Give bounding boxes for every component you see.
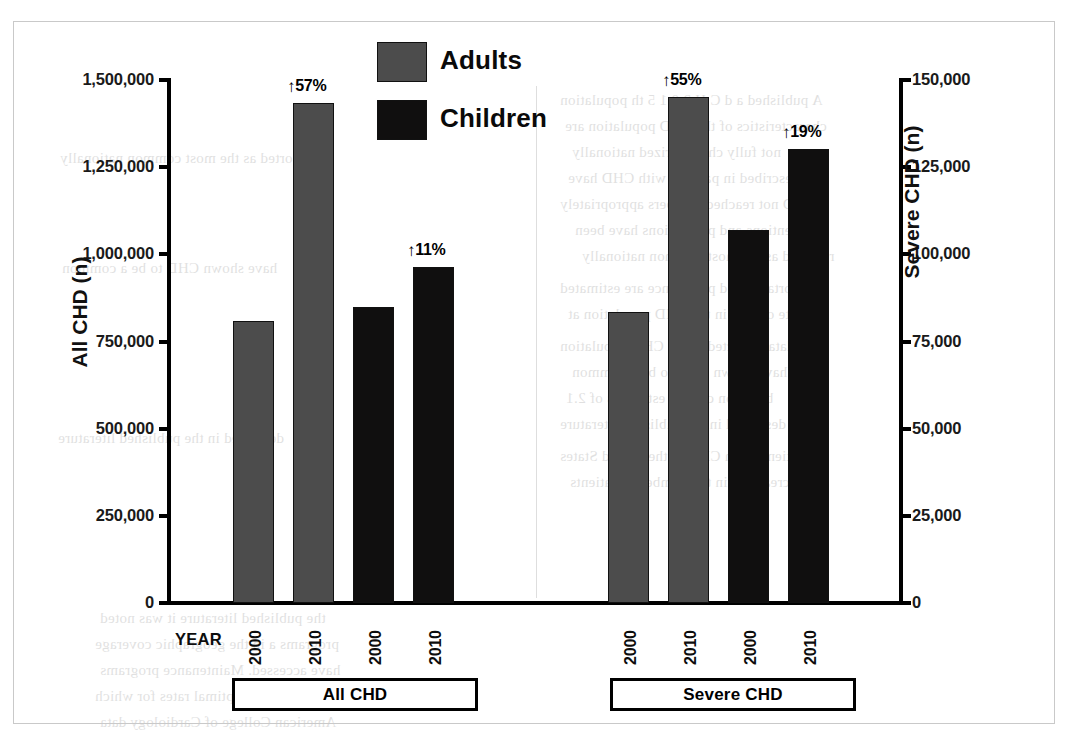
x-tick-label-all-chd-2000-adults: 2000 [247,630,265,665]
y-axis-right-tick [902,340,911,344]
up-arrow-icon: ↑ [662,72,670,89]
bar-annotation-value: 57% [295,77,326,94]
y-axis-right-tick-label: 50,000 [912,419,961,438]
x-tick-label-all-chd-2010-children: 2010 [427,630,445,665]
y-axis-right-tick [902,601,911,605]
x-axis-title: YEAR [175,630,222,649]
x-tick-label-severe-chd-2000-children: 2000 [742,630,760,665]
bar-annotation-value: 11% [415,241,445,258]
up-arrow-icon: ↑ [407,242,415,259]
bar-severe-chd-adults-2010 [668,97,709,603]
bar-all-chd-adults-2010 [293,103,334,603]
y-axis-left-tick-label: 0 [145,593,154,612]
y-axis-left-tick-label: 1,500,000 [82,70,154,89]
group-box-severe-chd: Severe CHD [610,678,856,711]
y-axis-right-tick [902,78,911,82]
bar-severe-chd-children-2010 [788,149,829,603]
bar-severe-chd-children-2000 [728,230,769,603]
bar-annotation-all-chd-children-2010: ↑11% [407,241,445,259]
y-axis-left-tick [159,427,168,431]
legend-swatch-adults [377,42,427,82]
bar-all-chd-adults-2000 [233,321,274,603]
bar-all-chd-children-2000 [353,307,394,603]
up-arrow-icon: ↑ [287,78,295,95]
bar-all-chd-children-2010 [413,267,454,603]
y-axis-left-tick [159,252,168,256]
y-axis-left-tick [159,165,168,169]
y-axis-right-tick [902,427,911,431]
y-axis-right-title: Severe CHD (n) [900,92,924,312]
y-axis-left-tick [159,340,168,344]
legend-swatch-children [377,100,427,140]
chart-plot-area: Adults Children 1,500,000 1,250,000 1,00… [0,0,1070,747]
legend-label-adults: Adults [440,45,522,76]
bar-annotation-severe-chd-adults-2010: ↑55% [662,71,701,89]
x-tick-label-severe-chd-2000-adults: 2000 [622,630,640,665]
y-axis-left-tick-label: 1,250,000 [82,157,154,176]
legend-label-children: Children [440,103,547,134]
y-axis-left-tick [159,78,168,82]
y-axis-left-title: All CHD (n) [68,212,92,412]
group-box-all-chd: All CHD [232,678,478,711]
bar-annotation-value: 19% [790,123,821,140]
y-axis-left-tick-label: 750,000 [96,332,154,351]
y-axis-right-tick-label: 0 [912,593,921,612]
y-axis-right-tick-label: 150,000 [912,70,970,89]
y-axis-left-tick [159,514,168,518]
bar-annotation-all-chd-adults-2010: ↑57% [287,77,326,95]
y-axis-right-tick-label: 75,000 [912,332,961,351]
x-tick-label-severe-chd-2010-children: 2010 [802,630,820,665]
y-axis-left-tick-label: 500,000 [96,419,154,438]
y-axis-left-tick-label: 1,000,000 [82,244,154,263]
bar-annotation-value: 55% [670,71,701,88]
y-axis-right-tick [902,514,911,518]
bar-severe-chd-adults-2000 [608,312,649,603]
bar-annotation-severe-chd-children-2010: ↑19% [782,123,821,141]
up-arrow-icon: ↑ [782,124,790,141]
x-tick-label-all-chd-2010-adults: 2010 [307,630,325,665]
x-tick-label-all-chd-2000-children: 2000 [367,630,385,665]
x-tick-label-severe-chd-2010-adults: 2010 [682,630,700,665]
y-axis-right-tick-label: 25,000 [912,506,961,525]
panel-divider [536,86,537,598]
y-axis-left-tick-label: 250,000 [96,506,154,525]
